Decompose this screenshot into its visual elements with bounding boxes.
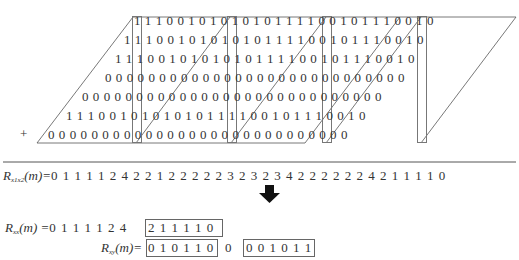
rxy-row: Rxy(m)= [101, 240, 142, 260]
rxy-middle-value: 0 [225, 240, 232, 256]
rxx-label: R [5, 220, 13, 235]
sum-values: 0 1 1 1 1 2 4 2 2 1 2 2 2 2 2 3 2 3 2 3 … [51, 168, 446, 183]
shift-row-7: 0 0 0 0 0 0 0 0 0 0 0 0 0 0 0 0 0 0 0 0 … [48, 127, 348, 143]
rxx-row: Rxx(m) =0 1 1 1 1 2 4 [5, 220, 127, 240]
plus-sign: + [20, 126, 27, 142]
sum-row: Rx1x2(m)=0 1 1 1 1 2 4 2 2 1 2 2 2 2 2 3… [3, 168, 446, 188]
rxx-prefix-values: 0 1 1 1 1 2 4 [49, 220, 126, 235]
shift-row-1: 1 1 1 0 0 1 0 1 0 1 0 1 0 1 1 1 1 0 0 1 … [134, 13, 434, 29]
rxy-arg: (m)= [115, 240, 142, 255]
sum-label: R [3, 168, 11, 183]
rxy-boxed-values-1: 0 1 0 1 1 0 [148, 240, 214, 256]
shift-row-2: 1 1 1 0 0 1 0 1 0 1 0 1 0 1 1 1 1 0 0 1 … [124, 32, 424, 48]
rxy-label: R [101, 240, 109, 255]
shift-row-4: 0 0 0 0 0 0 0 0 0 0 0 0 0 0 0 0 0 0 0 0 … [105, 70, 405, 86]
rxy-boxed-values-2: 0 0 1 0 1 1 [246, 240, 312, 256]
rxx-arg: (m) = [19, 220, 49, 235]
shift-row-6: 1 1 1 0 0 1 0 1 0 1 0 1 0 1 1 1 1 0 0 1 … [66, 108, 366, 124]
sum-arg: (m)= [24, 168, 51, 183]
shift-row-3: 1 1 1 0 0 1 0 1 0 1 0 1 0 1 1 1 1 0 0 1 … [115, 51, 415, 67]
sum-subscript: x1x2 [11, 176, 24, 184]
shift-row-5: 0 0 0 0 0 0 0 0 0 0 0 0 0 0 0 0 0 0 0 0 … [82, 89, 382, 105]
rxx-boxed-values: 2 1 1 1 1 0 [148, 220, 214, 236]
